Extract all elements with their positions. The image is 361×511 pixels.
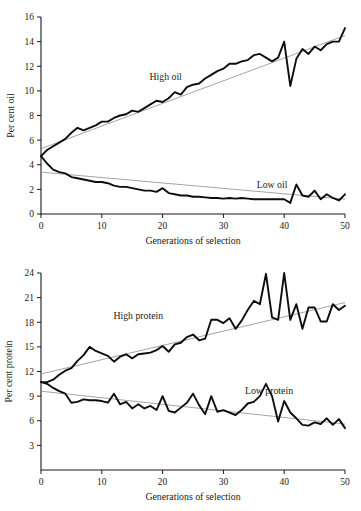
series-annotation-label: Low protein: [245, 385, 293, 396]
x-tick-label: 40: [279, 221, 289, 231]
x-tick-label: 50: [340, 477, 350, 487]
oil-series-group: [41, 28, 345, 203]
x-tick-label: 10: [97, 221, 107, 231]
oil-axis-lines: [41, 17, 345, 214]
protein-chart-svg: 3691215182124 01020304050 High proteinLo…: [0, 255, 361, 511]
y-tick-label: 6: [29, 416, 34, 426]
x-tick-label: 20: [158, 477, 168, 487]
trend-line: [41, 391, 345, 424]
y-tick-label: 6: [29, 136, 34, 146]
oil-axes: [41, 17, 345, 214]
x-tick-label: 40: [279, 477, 289, 487]
y-tick-label: 15: [25, 342, 35, 352]
oil-y-tick-group: 0246810121416: [25, 12, 42, 219]
oil-chart-svg: 0246810121416 01020304050 High oilLow oi…: [0, 0, 361, 255]
trend-line: [41, 172, 345, 199]
x-tick-label: 0: [39, 477, 44, 487]
protein-y-tick-group: 3691215182124: [25, 268, 42, 450]
y-tick-label: 10: [25, 86, 35, 96]
series-annotation-label: High oil: [149, 71, 182, 82]
y-tick-label: 2: [29, 185, 34, 195]
y-tick-label: 16: [25, 12, 35, 22]
series-annotation-label: Low oil: [257, 179, 288, 190]
oil-x-tick-group: 01020304050: [39, 214, 350, 231]
x-tick-label: 20: [158, 221, 168, 231]
oil-x-axis-title: Generations of selection: [145, 235, 240, 246]
oil-annotation-group: High oilLow oil: [149, 71, 287, 190]
data-series-line: [41, 382, 345, 428]
data-series-line: [41, 273, 345, 382]
y-tick-label: 24: [25, 268, 35, 278]
y-tick-label: 12: [25, 367, 35, 377]
x-tick-label: 50: [340, 221, 350, 231]
x-tick-label: 30: [219, 221, 229, 231]
y-tick-label: 4: [29, 160, 34, 170]
oil-trend-group: [41, 35, 345, 199]
chart-panel-oil: 0246810121416 01020304050 High oilLow oi…: [0, 0, 361, 255]
x-tick-label: 0: [39, 221, 44, 231]
protein-x-tick-group: 01020304050: [39, 470, 350, 487]
x-tick-label: 30: [219, 477, 229, 487]
protein-axis-lines: [41, 273, 345, 470]
oil-y-axis-title: Per cent oil: [5, 93, 16, 138]
x-tick-label: 10: [97, 477, 107, 487]
y-tick-label: 18: [25, 318, 35, 328]
figure-container: 0246810121416 01020304050 High oilLow oi…: [0, 0, 361, 511]
y-tick-label: 3: [29, 441, 34, 451]
protein-x-axis-title: Generations of selection: [145, 491, 240, 502]
y-tick-label: 21: [25, 293, 35, 303]
protein-trend-group: [41, 303, 345, 424]
y-tick-label: 12: [25, 62, 35, 72]
y-tick-label: 9: [29, 392, 34, 402]
data-series-line: [41, 156, 345, 203]
protein-axes: [41, 273, 345, 470]
protein-series-group: [41, 273, 345, 428]
y-tick-label: 8: [29, 111, 34, 121]
y-tick-label: 14: [25, 37, 35, 47]
protein-y-axis-title: Per cent protein: [3, 340, 14, 402]
series-annotation-label: High protein: [113, 310, 163, 321]
chart-panel-protein: 3691215182124 01020304050 High proteinLo…: [0, 255, 361, 511]
y-tick-label: 0: [29, 209, 34, 219]
